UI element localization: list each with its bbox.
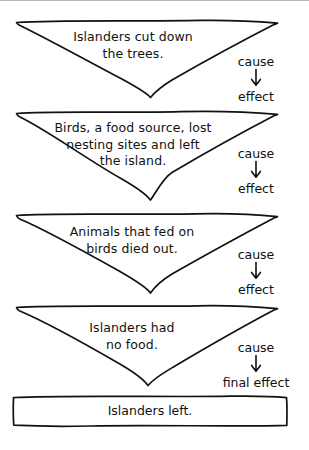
node-text-3: Animals that fed on birds died out. [56, 224, 208, 257]
connector-cause-label-4: cause [216, 341, 296, 355]
connector-final-effect-label-4: final effect [206, 376, 306, 390]
node-text-5: Islanders left. [13, 403, 287, 419]
connector-effect-label-1: effect [216, 90, 296, 104]
node-text-4: Islanders had no food. [62, 320, 202, 353]
node-text-1: Islanders cut down the trees. [58, 29, 208, 62]
down-arrow-icon-4 [252, 356, 261, 372]
cause-effect-diagram: Islanders cut down the trees. Birds, a f… [0, 0, 309, 450]
connector-cause-label-2: cause [216, 147, 296, 161]
connector-effect-label-3: effect [216, 283, 296, 297]
down-arrow-icon-2 [252, 162, 261, 178]
connector-effect-label-2: effect [216, 182, 296, 196]
connector-cause-label-3: cause [216, 248, 296, 262]
down-arrow-icon-1 [252, 70, 261, 86]
down-arrow-icon-3 [252, 263, 261, 279]
connector-cause-label-1: cause [216, 55, 296, 69]
node-text-2: Birds, a food source, lost nesting sites… [42, 120, 224, 170]
